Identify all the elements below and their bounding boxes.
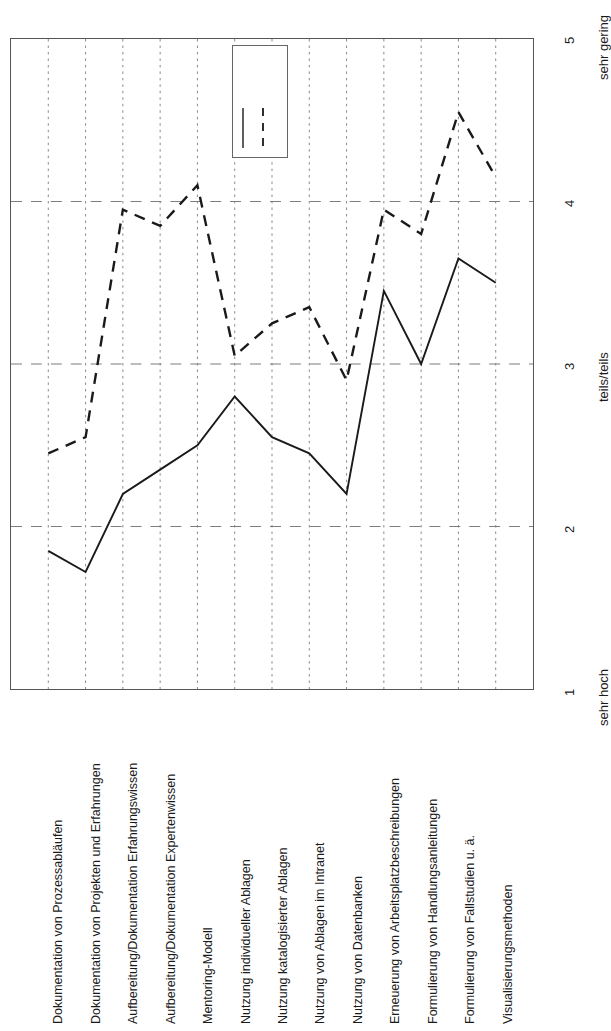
y-axis-anchor-label: teils/teils [596, 352, 611, 402]
chart-legend [232, 45, 288, 158]
x-category-label: Nutzung katalogisierter Ablagen [277, 847, 290, 1024]
chart-line-dashed-series [48, 112, 495, 453]
x-category-label: Mentoring-Modell [202, 927, 215, 1024]
x-category-label: Dokumentation von Projekten und Erfahrun… [90, 763, 103, 1024]
y-tick-label-4: 4 [562, 200, 577, 207]
x-category-label: Formulierung von Handlungsanleitungen [427, 799, 440, 1024]
y-axis-anchor-label: sehr gering [596, 15, 611, 80]
x-category-label: Aufbereitung/Dokumentation Erfahrungswis… [127, 763, 140, 1024]
x-category-label: Formulierung von Fallstudien u. ä. [464, 835, 477, 1024]
y-tick-label-2: 2 [562, 526, 577, 533]
y-tick-label-5: 5 [562, 37, 577, 44]
x-category-label: Erneuerung von Arbeitsplatzbeschreibunge… [389, 778, 402, 1024]
x-category-label: Dokumentation von Prozessabläufen [52, 820, 65, 1024]
x-category-label: Aufbereitung/Dokumentation Expertenwisse… [165, 774, 178, 1024]
x-category-label: Nutzung von Datenbanken [352, 876, 365, 1024]
chart-line-solid-series [48, 258, 495, 572]
x-category-label: Nutzung individueller Ablagen [240, 859, 253, 1024]
x-axis-category-labels: Dokumentation von ProzessabläufenDokumen… [0, 690, 607, 1031]
x-category-label: Visualisierungsmethoden [502, 885, 515, 1024]
legend-dashed-sample [260, 106, 266, 150]
y-tick-label-3: 3 [562, 363, 577, 370]
legend-solid-sample [240, 106, 246, 150]
x-category-label: Nutzung von Ablagen im Intranet [314, 843, 327, 1024]
